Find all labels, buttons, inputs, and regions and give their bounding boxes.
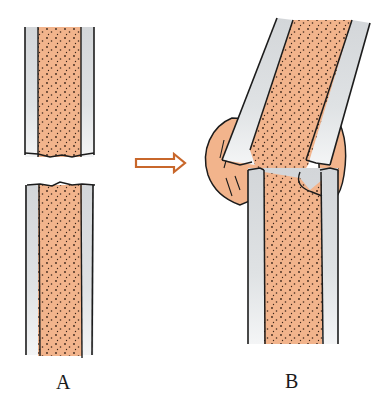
fracture-healing-diagram [0, 0, 386, 401]
progression-arrow-icon [136, 154, 185, 172]
panel-a-label: A [56, 371, 70, 394]
panel-b-upper-fragment [222, 18, 370, 178]
panel-a-lower-fragment [25, 182, 95, 358]
panel-a-upper-fragment [25, 27, 94, 157]
panel-b-label: B [285, 370, 298, 393]
panel-b-lower-fragment [248, 168, 338, 344]
